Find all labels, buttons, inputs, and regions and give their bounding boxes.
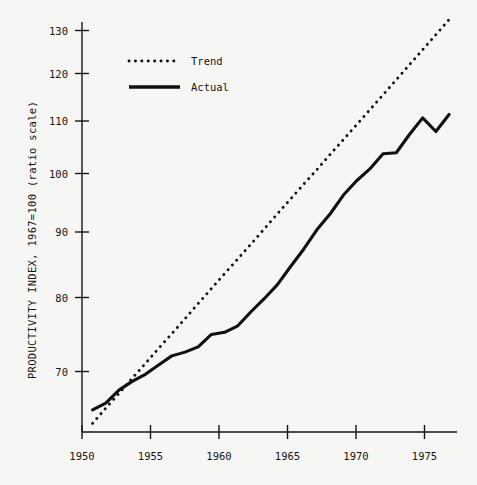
y-tick-label: 100 — [49, 168, 68, 180]
y-tick-label: 120 — [49, 68, 68, 80]
x-tick-label: 1960 — [206, 450, 231, 462]
y-tick-label: 70 — [55, 366, 68, 378]
x-tick-label: 1975 — [412, 450, 437, 462]
chart-plot-area: 130 120 110 100 90 80 70 1950 1955 1960 … — [0, 0, 477, 485]
legend-label-actual: Actual — [191, 81, 229, 93]
y-tick-label: 90 — [55, 226, 68, 238]
x-tick-label: 1965 — [275, 450, 300, 462]
chart-figure: 130 120 110 100 90 80 70 1950 1955 1960 … — [0, 0, 477, 485]
y-tick-label: 80 — [55, 292, 68, 304]
chart-background — [0, 0, 477, 485]
y-tick-label: 110 — [49, 115, 68, 127]
x-tick-label: 1970 — [343, 450, 368, 462]
legend-label-trend: Trend — [191, 55, 223, 67]
x-tick-label: 1955 — [138, 450, 163, 462]
y-tick-label: 130 — [49, 25, 68, 37]
x-tick-label: 1950 — [69, 450, 94, 462]
y-axis-title: PRODUCTIVITY INDEX, 1967=100 (ratio scal… — [26, 101, 38, 379]
